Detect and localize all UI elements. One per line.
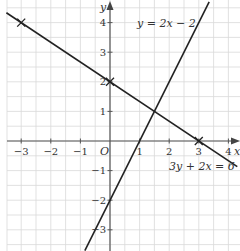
svg-text:−2: −2 (43, 146, 58, 157)
svg-text:3: 3 (196, 146, 202, 157)
origin-label: O (100, 145, 109, 158)
equation-label-line2: 3y + 2x = 6 (169, 160, 235, 173)
svg-text:1: 1 (136, 146, 142, 157)
svg-text:−2: −2 (91, 195, 106, 206)
chart-plot: −3−2−11234−3−2−11234 y = 2x − 2 3y + 2x … (0, 0, 240, 251)
svg-text:2: 2 (166, 146, 172, 157)
svg-text:−1: −1 (73, 146, 88, 157)
y-axis-label: y (99, 1, 107, 14)
svg-text:4: 4 (100, 17, 106, 28)
grid (7, 0, 240, 251)
x-axis-label: x (234, 145, 240, 158)
svg-text:4: 4 (225, 146, 231, 157)
svg-text:1: 1 (100, 106, 106, 117)
svg-text:−3: −3 (14, 146, 29, 157)
svg-text:3: 3 (100, 47, 106, 58)
equation-label-line1: y = 2x − 2 (136, 17, 196, 30)
svg-text:−3: −3 (91, 224, 106, 235)
svg-text:−1: −1 (91, 165, 106, 176)
svg-text:2: 2 (100, 76, 106, 87)
